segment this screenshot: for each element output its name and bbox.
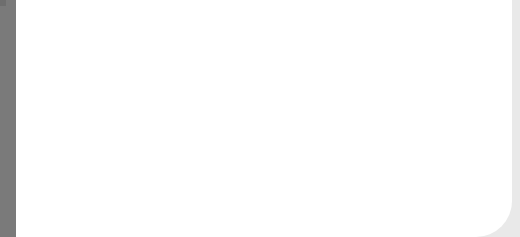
- panel-corner-fill: [470, 195, 512, 237]
- graph-paper-grid: [16, 0, 512, 237]
- left-sidebar-bar: [0, 0, 16, 237]
- panel-rounded-corner: [470, 195, 520, 237]
- selection-rectangle[interactable]: [0, 0, 6, 6]
